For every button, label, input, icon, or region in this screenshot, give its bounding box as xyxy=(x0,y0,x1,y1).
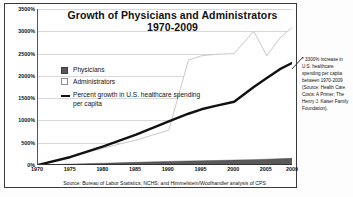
x-axis: 197019751980198519901995200020052009 xyxy=(37,166,292,176)
y-axis-tick-label: 3000% xyxy=(18,28,35,34)
legend-item-administrators: Administrators xyxy=(61,78,211,86)
x-axis-tick-label: 2000 xyxy=(227,166,239,172)
source-caption: Source: Bureau of Labor Statistics; NCHS… xyxy=(37,180,292,186)
y-axis: 0%500%1000%1500%2000%2500%3000%3500% xyxy=(7,9,35,165)
y-axis-tick-label: 2500% xyxy=(18,51,35,57)
x-axis-tick-label: 2005 xyxy=(260,166,272,172)
page-stray-text xyxy=(2,190,302,196)
y-axis-tick-label: 1000% xyxy=(18,117,35,123)
legend-item-physicians: Physicians xyxy=(61,66,211,74)
y-axis-tick-label: 1500% xyxy=(18,95,35,101)
chart-frame: 0%500%1000%1500%2000%2500%3000%3500% Gro… xyxy=(4,3,297,188)
legend-swatch-icon xyxy=(61,78,68,85)
chart-legend: Physicians Administrators Percent growth… xyxy=(61,66,211,112)
y-axis-tick-label: 500% xyxy=(21,140,35,146)
legend-swatch-icon xyxy=(61,67,68,74)
y-axis-tick-label: 3500% xyxy=(18,6,35,12)
y-axis-tick-label: 2000% xyxy=(18,73,35,79)
x-axis-tick-label: 1995 xyxy=(194,166,206,172)
x-axis-tick-label: 1975 xyxy=(64,166,76,172)
legend-label-spending: Percent growth in U.S. healthcare spendi… xyxy=(73,91,211,108)
x-axis-tick-label: 1990 xyxy=(162,166,174,172)
x-axis-tick-label: 1980 xyxy=(96,166,108,172)
legend-label-administrators: Administrators xyxy=(73,78,115,86)
legend-line-icon xyxy=(61,95,70,97)
chart-figure: 0%500%1000%1500%2000%2500%3000%3500% Gro… xyxy=(0,0,353,197)
x-axis-tick-label: 1970 xyxy=(31,166,43,172)
annotation-note: * 3300% increase in U.S. healthcare spen… xyxy=(302,57,351,113)
x-axis-tick-label: 1985 xyxy=(129,166,141,172)
legend-item-spending: Percent growth in U.S. healthcare spendi… xyxy=(61,91,211,108)
legend-label-physicians: Physicians xyxy=(73,66,105,74)
x-axis-tick-label: 2009 xyxy=(286,166,298,172)
